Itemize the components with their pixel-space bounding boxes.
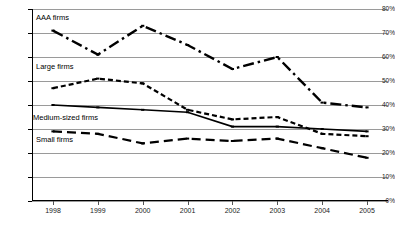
data-point-marker [321, 147, 324, 149]
data-point-marker [51, 104, 54, 106]
data-point-marker [365, 130, 368, 132]
data-point-marker [186, 138, 189, 140]
data-point-marker [321, 102, 324, 104]
data-point-marker [321, 128, 324, 130]
data-point-marker [51, 87, 54, 89]
data-point-marker [276, 126, 279, 128]
data-point-marker [276, 138, 279, 140]
series-label-small-firms: Small firms [36, 135, 73, 144]
data-point-marker [321, 133, 324, 135]
series-label-medium-sized-firms: Medium-sized firms [33, 113, 98, 122]
series-line [53, 131, 367, 157]
data-point-marker [96, 106, 99, 108]
data-point-marker [141, 109, 144, 111]
data-point-marker [141, 82, 144, 84]
data-point-marker [231, 140, 234, 142]
data-point-marker [231, 118, 234, 120]
data-point-marker [365, 157, 368, 159]
data-point-marker [231, 126, 234, 128]
data-point-marker [51, 130, 54, 132]
data-point-marker [231, 68, 234, 70]
data-point-marker [186, 109, 189, 111]
series-label-aaa-firms: AAA firms [36, 13, 69, 22]
data-point-marker [141, 142, 144, 144]
data-point-marker [96, 78, 99, 80]
data-point-marker [276, 116, 279, 118]
data-point-marker [51, 30, 54, 32]
series-label-large-firms: Large firms [36, 62, 74, 71]
data-point-marker [365, 135, 368, 137]
series-line [53, 26, 367, 108]
series-line [53, 105, 367, 131]
data-point-marker [186, 111, 189, 113]
data-point-marker [276, 56, 279, 58]
data-point-marker [365, 106, 368, 108]
data-point-marker [96, 133, 99, 135]
data-point-marker [186, 44, 189, 46]
data-point-marker [141, 25, 144, 27]
data-point-marker [96, 54, 99, 56]
line-chart: 0%10%20%30%40%50%60%70%80% 1998199920002… [0, 0, 395, 230]
